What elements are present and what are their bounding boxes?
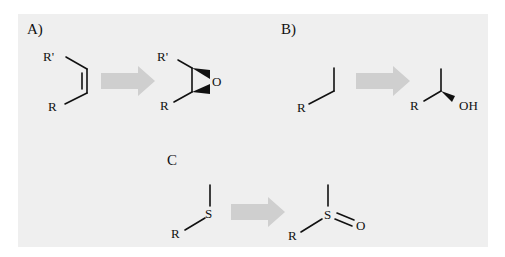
atom-oh: OH <box>459 98 478 113</box>
atom-o: O <box>356 218 365 233</box>
reaction-c-reactant: R S <box>171 185 212 241</box>
atom-r: R <box>48 99 57 114</box>
atom-r: R <box>171 226 180 241</box>
arrow-icon <box>356 66 410 96</box>
reaction-diagram: A) R' R R' R O B) R <box>0 0 505 257</box>
reaction-a-label: A) <box>27 21 43 38</box>
atom-r-prime: R' <box>43 49 54 64</box>
atom-s: S <box>205 206 212 221</box>
reaction-b-product: R OH <box>410 69 478 113</box>
reaction-c-product: R S O <box>288 185 365 243</box>
reaction-a: A) R' R R' R O <box>27 21 221 114</box>
reaction-c-label: C <box>167 152 177 168</box>
atom-r: R <box>160 98 169 113</box>
atom-r: R <box>410 98 419 113</box>
reaction-b: B) R R OH <box>281 21 478 115</box>
atom-r: R <box>297 100 306 115</box>
reaction-a-reactant: R' R <box>43 49 87 114</box>
arrow-icon <box>231 197 285 227</box>
reaction-a-product: R' R O <box>157 49 221 113</box>
atom-o: O <box>212 74 221 89</box>
atom-r: R <box>288 228 297 243</box>
reaction-b-label: B) <box>281 21 296 38</box>
reaction-c: C R S R S O <box>167 152 365 243</box>
arrow-icon <box>101 66 155 96</box>
atom-s: S <box>324 207 331 222</box>
atom-r-prime: R' <box>157 49 168 64</box>
reaction-b-reactant: R <box>297 68 334 115</box>
